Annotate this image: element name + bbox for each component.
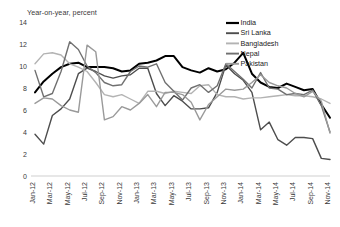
- x-axis-tick: Mar-14: [255, 182, 262, 204]
- data-series-group: [35, 42, 330, 160]
- x-axis-tick: Nov-12: [116, 182, 123, 205]
- series-line-bangladesh: [35, 53, 330, 104]
- series-line-nepal: [35, 42, 330, 132]
- legend-label-pakistan: Pakistan: [241, 59, 269, 68]
- y-axis-tick: 12: [19, 41, 27, 48]
- x-axis-tick: Sep-13: [203, 182, 211, 205]
- y-axis-tick: 6: [23, 107, 27, 114]
- x-axis-tick: Jul-13: [185, 182, 192, 201]
- x-axis-tick: Jul-12: [81, 182, 88, 201]
- x-axis-tick: Nov-13: [220, 182, 227, 205]
- x-axis-tick: Sep-12: [98, 182, 106, 205]
- y-axis-tick: 4: [23, 129, 27, 136]
- x-axis-tick: Mar-13: [150, 182, 157, 204]
- x-axis-tick: Sep-14: [307, 182, 315, 205]
- y-axis-tick: 10: [19, 63, 27, 70]
- x-axis-tick: May-14: [272, 182, 280, 205]
- chart-legend: IndiaSri LankaBangladeshNepalPakistan: [226, 18, 278, 68]
- legend-label-sri-lanka: Sri Lanka: [241, 28, 271, 37]
- chart-container: Year-on-year, percent 02468101214 Jan-12…: [0, 0, 340, 227]
- x-axis-tick: Jan-12: [29, 182, 36, 204]
- x-axis-tick: May-13: [168, 182, 176, 205]
- series-line-sri-lanka: [35, 65, 330, 160]
- x-axis-tick: Mar-12: [46, 182, 53, 204]
- y-axis-tick-labels: 02468101214: [19, 19, 27, 180]
- y-axis-tick: 0: [23, 173, 27, 180]
- x-axis-tick: Jan-14: [237, 182, 244, 204]
- legend-label-bangladesh: Bangladesh: [241, 39, 279, 48]
- legend-label-nepal: Nepal: [241, 49, 260, 58]
- x-axis-tick: Nov-14: [324, 182, 331, 205]
- y-axis-tick: 14: [19, 19, 27, 26]
- x-axis-tick: Jan-13: [133, 182, 140, 204]
- y-axis-tick: 8: [23, 85, 27, 92]
- legend-label-india: India: [241, 18, 257, 27]
- x-axis-tick-labels: Jan-12Mar-12May-12Jul-12Sep-12Nov-12Jan-…: [29, 182, 331, 205]
- x-axis-tick: May-12: [64, 182, 72, 205]
- y-axis-tick: 2: [23, 151, 27, 158]
- series-line-pakistan: [35, 45, 330, 133]
- x-axis-tick: Jul-14: [289, 182, 296, 201]
- line-chart-plot: 02468101214 Jan-12Mar-12May-12Jul-12Sep-…: [0, 0, 340, 227]
